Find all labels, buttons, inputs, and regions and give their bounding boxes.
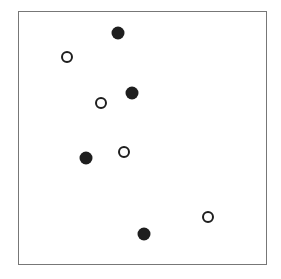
open-circle-icon bbox=[202, 211, 214, 223]
filled-circle-icon bbox=[126, 87, 139, 100]
filled-circle-icon bbox=[112, 27, 125, 40]
filled-circle-icon bbox=[80, 152, 93, 165]
open-circle-icon bbox=[61, 51, 73, 63]
open-circle-icon bbox=[95, 97, 107, 109]
open-circle-icon bbox=[118, 146, 130, 158]
filled-circle-icon bbox=[138, 228, 151, 241]
